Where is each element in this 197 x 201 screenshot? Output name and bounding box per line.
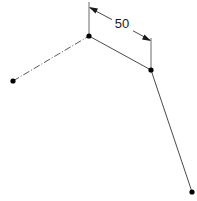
dimension-arrow-end-icon <box>142 35 151 42</box>
upper-solid-segment <box>89 36 151 70</box>
apex-vertex-node <box>86 33 91 38</box>
dimension-arrow-start-icon <box>89 7 98 14</box>
right-bend-node <box>148 67 153 72</box>
left-endpoint-node <box>10 78 15 83</box>
dimension-label-50: 50 <box>115 16 129 31</box>
sketch-drawing: 50 <box>0 0 197 201</box>
left-center-line-segment <box>13 36 89 81</box>
bottom-endpoint-node <box>189 189 194 194</box>
lower-right-solid-segment <box>151 70 192 192</box>
sketch-canvas: 50 <box>0 0 197 201</box>
